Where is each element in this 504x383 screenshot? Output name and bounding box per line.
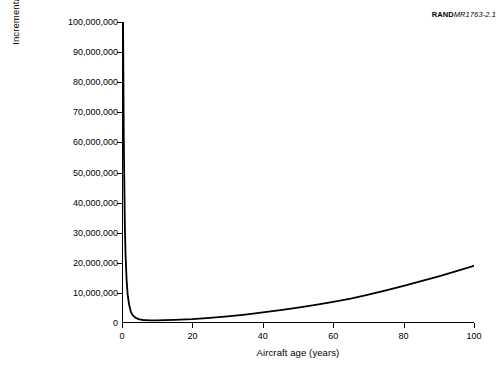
y-tick-label: 90,000,000 xyxy=(73,48,118,57)
y-tick-label: 40,000,000 xyxy=(73,198,118,207)
y-tick-label: 80,000,000 xyxy=(73,78,118,87)
y-tick-label: 100,000,000 xyxy=(68,18,118,27)
x-tick-label: 60 xyxy=(328,331,338,341)
y-tick-label: 50,000,000 xyxy=(73,168,118,177)
y-axis-tick-labels: 010,000,00020,000,00030,000,00040,000,00… xyxy=(32,22,118,323)
y-tick-label: 70,000,000 xyxy=(73,108,118,117)
credit-bold-text: RAND xyxy=(432,10,454,19)
x-tick-label: 0 xyxy=(119,331,124,341)
y-tick-label: 10,000,000 xyxy=(73,288,118,297)
y-tick-label: 30,000,000 xyxy=(73,228,118,237)
rand-credit: RANDMR1763-2.1 xyxy=(432,10,496,19)
x-tick-mark xyxy=(333,323,334,328)
y-tick-label: 60,000,000 xyxy=(73,138,118,147)
x-tick-mark xyxy=(474,323,475,328)
y-tick-label: 0 xyxy=(113,319,118,328)
y-axis-label: Incremental cost per available year ($) xyxy=(10,0,21,82)
x-tick-mark xyxy=(122,323,123,328)
x-axis-label: Aircraft age (years) xyxy=(122,347,474,358)
credit-italic-text: MR1763-2.1 xyxy=(454,10,496,19)
x-tick-label: 100 xyxy=(466,331,481,341)
x-tick-mark xyxy=(404,323,405,328)
x-tick-mark xyxy=(263,323,264,328)
x-tick-label: 80 xyxy=(399,331,409,341)
y-axis-label-wrap: Incremental cost per available year ($) xyxy=(14,22,28,323)
x-tick-mark xyxy=(192,323,193,328)
data-curve xyxy=(122,22,474,323)
x-tick-label: 20 xyxy=(187,331,197,341)
chart-figure: RANDMR1763-2.1 Incremental cost per avai… xyxy=(0,0,504,383)
x-tick-label: 40 xyxy=(258,331,268,341)
y-tick-label: 20,000,000 xyxy=(73,258,118,267)
